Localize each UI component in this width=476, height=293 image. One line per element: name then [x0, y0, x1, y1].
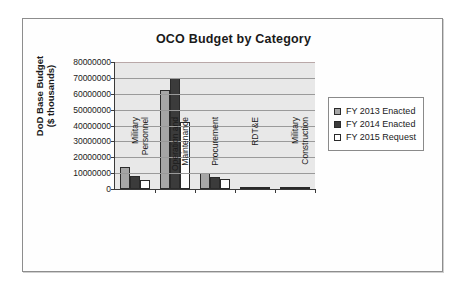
- legend-swatch-icon: [334, 108, 341, 115]
- y-axis-tick-label: 40000000: [43, 122, 111, 131]
- chart-frame: OCO Budget by Category DoD Base Budget (…: [22, 18, 443, 272]
- legend-swatch-icon: [334, 121, 341, 128]
- x-axis-category-label: MilitaryPersonnel: [130, 117, 150, 191]
- gridline: [115, 78, 315, 79]
- legend-item-label: FY 2013 Enacted: [346, 106, 415, 116]
- legend-item-label: FY 2015 Request: [346, 132, 416, 142]
- gridline: [115, 94, 315, 95]
- y-axis-tick-label: 30000000: [43, 137, 111, 146]
- category-label-line: Construction: [300, 117, 310, 191]
- y-axis-tick-labels: 8000000070000000600000005000000040000000…: [43, 55, 111, 195]
- x-axis-category-label: Operation andMaintenance: [170, 117, 190, 191]
- bar: [200, 173, 210, 189]
- gridline: [115, 62, 315, 63]
- category-label-line: RDT&E: [250, 117, 260, 191]
- scanned-page: OCO Budget by Category DoD Base Budget (…: [0, 0, 476, 293]
- y-axis-tick-label: 70000000: [43, 74, 111, 83]
- bar: [120, 167, 130, 189]
- y-axis-tick-label: 60000000: [43, 90, 111, 99]
- category-label-line: Operation and: [170, 117, 180, 191]
- x-axis-category-label: Procurement: [210, 117, 230, 191]
- x-axis-category-label: MilitaryConstruction: [290, 117, 310, 191]
- y-axis-tick-label: 50000000: [43, 106, 111, 115]
- gridline: [115, 110, 315, 111]
- x-axis-category-labels: MilitaryPersonnelOperation andMaintenanc…: [114, 191, 324, 273]
- legend-item[interactable]: FY 2014 Enacted: [334, 119, 416, 129]
- category-label-line: Military: [130, 117, 140, 191]
- y-axis-tick-label: 10000000: [43, 169, 111, 178]
- category-label-line: Personnel: [140, 117, 150, 191]
- legend-item-label: FY 2014 Enacted: [346, 119, 415, 129]
- category-label-line: Maintenance: [180, 117, 190, 191]
- legend-item[interactable]: FY 2015 Request: [334, 132, 416, 142]
- category-label-line: Procurement: [210, 117, 220, 191]
- chart-legend: FY 2013 EnactedFY 2014 EnactedFY 2015 Re…: [328, 97, 424, 151]
- y-axis-tick-label: 80000000: [43, 58, 111, 67]
- bar: [280, 187, 290, 189]
- bar: [160, 90, 170, 189]
- legend-item[interactable]: FY 2013 Enacted: [334, 106, 416, 116]
- category-label-line: Military: [290, 117, 300, 191]
- chart-title: OCO Budget by Category: [23, 32, 444, 46]
- y-axis-tick-label: 0: [43, 185, 111, 194]
- x-axis-category-label: RDT&E: [250, 117, 270, 191]
- legend-swatch-icon: [334, 134, 341, 141]
- bar: [240, 187, 250, 189]
- y-axis-tick-label: 20000000: [43, 153, 111, 162]
